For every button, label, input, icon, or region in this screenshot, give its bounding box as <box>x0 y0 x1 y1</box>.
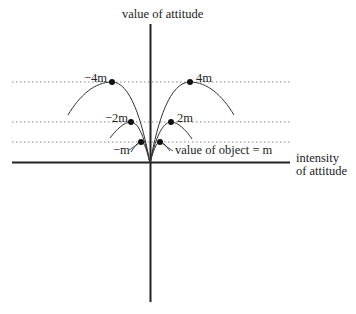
point-neg-4m <box>109 79 115 85</box>
label-value-of-object: value of object = m <box>175 144 272 157</box>
curve-neg-m <box>131 142 150 163</box>
point-pos-4m <box>187 79 193 85</box>
point-neg-2m <box>128 119 134 125</box>
label-neg-m: −m <box>113 144 130 157</box>
label-neg-2m: −2m <box>105 112 128 125</box>
label-pos-2m: 2m <box>177 112 193 125</box>
x-axis-label-line2: of attitude <box>296 165 347 178</box>
y-axis-label: value of attitude <box>122 8 203 21</box>
label-pos-4m: 4m <box>196 72 212 85</box>
point-pos-m <box>157 139 163 145</box>
label-neg-4m: −4m <box>84 72 107 85</box>
point-pos-2m <box>168 119 174 125</box>
curve-pos-m <box>150 142 170 163</box>
point-neg-m <box>138 139 144 145</box>
